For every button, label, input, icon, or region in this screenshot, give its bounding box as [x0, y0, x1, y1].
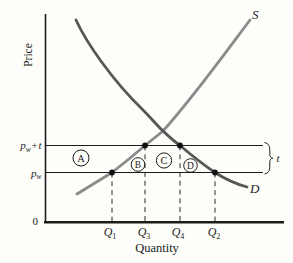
supply-label: S [252, 7, 259, 22]
tariff-price-t: t [38, 139, 42, 151]
region-c-label: C [160, 155, 167, 166]
world-price-label: pw [30, 167, 42, 182]
region-a-label: A [77, 153, 85, 164]
point-dot-q3 [142, 143, 148, 149]
q1-base: Q [104, 225, 113, 239]
region-circle-c: C [156, 153, 171, 168]
world-price-sub: w [36, 172, 41, 181]
quantity-label-q1: Q1 [104, 225, 117, 241]
q1-sub: 1 [112, 232, 116, 241]
quantity-label-q4: Q4 [172, 225, 185, 241]
tariff-price-label: pw+t [19, 139, 42, 154]
quantity-label-q3: Q3 [138, 225, 151, 241]
region-circle-b: B [131, 158, 145, 172]
origin-label: 0 [33, 215, 39, 227]
q3-sub: 3 [146, 232, 150, 241]
tariff-diagram: S D Price Quantity 0 pw+t pw A B C D t Q… [0, 0, 293, 263]
region-circle-d: D [184, 159, 198, 173]
point-dot-q1 [109, 170, 115, 176]
q2-sub: 2 [216, 232, 220, 241]
tariff-brace-label: t [277, 152, 281, 164]
region-d-label: D [187, 161, 194, 171]
quantity-axis-label: Quantity [135, 241, 179, 255]
q3-base: Q [138, 225, 147, 239]
q4-base: Q [172, 225, 181, 239]
tariff-price-sub: w [26, 145, 31, 154]
region-circle-a: A [73, 150, 89, 166]
point-dot-q4 [177, 143, 183, 149]
q4-sub: 4 [180, 232, 184, 241]
point-dot-q2 [212, 170, 218, 176]
demand-label: D [249, 181, 260, 196]
diagram-canvas: S D Price Quantity 0 pw+t pw A B C D t Q… [0, 0, 293, 263]
tariff-price-plus: + [32, 140, 38, 151]
region-b-label: B [135, 160, 141, 170]
price-axis-label: Price [22, 43, 34, 67]
quantity-label-q2: Q2 [208, 225, 221, 241]
q2-base: Q [208, 225, 217, 239]
tariff-brace [265, 143, 273, 175]
